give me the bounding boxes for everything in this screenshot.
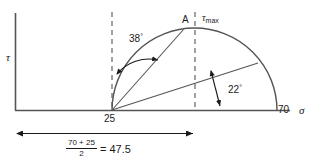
- angle-arc-38: [117, 59, 158, 74]
- sigma-max-value-label: 70: [278, 105, 289, 115]
- axis-group: [15, 13, 290, 111]
- center-dimension-label: 70 + 25 2 = 47.5: [66, 139, 131, 158]
- angle-38-value: 38: [129, 33, 140, 44]
- diagram-canvas: [0, 0, 321, 167]
- fraction-result: = 47.5: [100, 143, 131, 155]
- tau-max-subscript: max: [206, 17, 219, 24]
- angle-38-label: 38°: [129, 33, 143, 44]
- fraction-denominator: 2: [77, 149, 85, 158]
- tau-axis-label: τ: [6, 52, 10, 63]
- angle-38-degree-sign: °: [140, 33, 143, 40]
- fraction-numerator: 70 + 25: [66, 139, 97, 148]
- tau-max-label: τmax: [202, 13, 219, 24]
- angle-22-value: 22: [228, 84, 239, 95]
- mohrs-circle-diagram: τ σ 25 70 A τmax 38° 22° 70 + 25 2 = 47.…: [0, 0, 321, 167]
- sigma-axis-label: σ: [299, 105, 304, 116]
- angle-22-label: 22°: [228, 84, 242, 95]
- angle-22-degree-sign: °: [239, 84, 242, 91]
- sigma-min-value-label: 25: [104, 114, 115, 124]
- center-fraction: 70 + 25 2: [66, 139, 97, 158]
- point-a-label: A: [182, 15, 189, 25]
